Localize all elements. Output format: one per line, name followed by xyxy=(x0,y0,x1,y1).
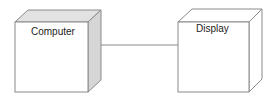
node-display-side-face xyxy=(249,9,262,92)
node-display-label: Display xyxy=(196,23,229,34)
node-computer-top-face xyxy=(15,10,101,22)
node-computer-label: Computer xyxy=(31,26,75,37)
node-computer-side-face xyxy=(88,10,101,92)
node-display-top-face xyxy=(178,9,262,22)
deployment-diagram xyxy=(0,0,277,99)
node-display[interactable] xyxy=(178,9,262,92)
node-computer[interactable] xyxy=(15,10,101,92)
